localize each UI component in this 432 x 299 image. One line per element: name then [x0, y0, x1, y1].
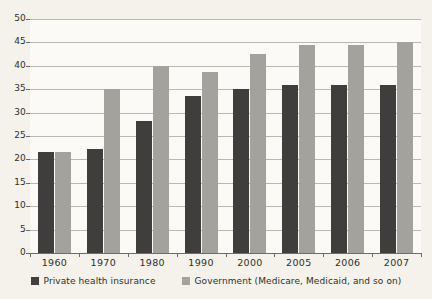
bar-private — [380, 85, 396, 253]
y-tick-mark — [26, 19, 30, 20]
y-tick-label: 50 — [2, 14, 26, 23]
bar-private — [185, 96, 201, 253]
legend-swatch-government-icon — [182, 277, 190, 285]
y-tick-label: 35 — [2, 84, 26, 93]
x-tick-mark — [274, 253, 275, 257]
legend-swatch-private-icon — [31, 277, 39, 285]
x-tick-mark — [177, 253, 178, 257]
bar-government — [348, 45, 364, 253]
y-tick-mark — [26, 89, 30, 90]
x-tick-mark — [323, 253, 324, 257]
bar-group — [233, 19, 266, 253]
x-tick-mark — [30, 253, 31, 257]
x-tick-label: 2000 — [226, 258, 275, 268]
x-tick-label: 1980 — [128, 258, 177, 268]
bar-government — [299, 45, 315, 253]
bar-private — [136, 121, 152, 253]
y-tick-mark — [26, 113, 30, 114]
bar-group — [282, 19, 315, 253]
bar-government — [104, 89, 120, 253]
y-tick-label: 40 — [2, 61, 26, 70]
bar-private — [87, 149, 103, 253]
x-tick-mark — [226, 253, 227, 257]
bar-chart: 05101520253035404550 Private health insu… — [0, 0, 432, 299]
bar-group — [38, 19, 71, 253]
bar-group — [380, 19, 413, 253]
legend-entry-private: Private health insurance — [31, 277, 156, 286]
y-tick-label: 20 — [2, 154, 26, 163]
bar-group — [136, 19, 169, 253]
legend-label-private: Private health insurance — [44, 277, 156, 286]
y-axis-labels: 05101520253035404550 — [0, 0, 26, 299]
x-tick-mark — [421, 253, 422, 257]
y-tick-mark — [26, 136, 30, 137]
x-tick-mark — [372, 253, 373, 257]
x-tick-mark — [128, 253, 129, 257]
bar-government — [55, 152, 71, 253]
y-tick-mark — [26, 42, 30, 43]
y-tick-mark — [26, 66, 30, 67]
plot-area — [30, 19, 421, 253]
x-tick-label: 2007 — [372, 258, 421, 268]
bar-private — [331, 85, 347, 253]
y-tick-mark — [26, 206, 30, 207]
y-tick-label: 30 — [2, 108, 26, 117]
y-tick-mark — [26, 230, 30, 231]
x-tick-label: 2006 — [323, 258, 372, 268]
bar-government — [202, 72, 218, 253]
x-tick-label: 1960 — [30, 258, 79, 268]
bar-private — [233, 89, 249, 253]
y-tick-mark — [26, 183, 30, 184]
y-tick-label: 0 — [2, 248, 26, 257]
chart-legend: Private health insurance Government (Med… — [0, 274, 432, 288]
y-tick-label: 45 — [2, 37, 26, 46]
legend-entry-government: Government (Medicare, Medicaid, and so o… — [182, 277, 402, 286]
bar-government — [153, 66, 169, 253]
x-tick-label: 1990 — [177, 258, 226, 268]
legend-label-government: Government (Medicare, Medicaid, and so o… — [195, 277, 402, 286]
bar-government — [250, 54, 266, 253]
bar-group — [331, 19, 364, 253]
bar-government — [397, 42, 413, 253]
bar-private — [282, 85, 298, 253]
x-tick-mark — [79, 253, 80, 257]
bar-group — [185, 19, 218, 253]
y-tick-label: 5 — [2, 225, 26, 234]
y-tick-label: 15 — [2, 178, 26, 187]
y-tick-mark — [26, 159, 30, 160]
y-tick-label: 25 — [2, 131, 26, 140]
x-tick-label: 2005 — [274, 258, 323, 268]
y-tick-label: 10 — [2, 201, 26, 210]
x-tick-label: 1970 — [79, 258, 128, 268]
bar-group — [87, 19, 120, 253]
bar-private — [38, 152, 54, 253]
